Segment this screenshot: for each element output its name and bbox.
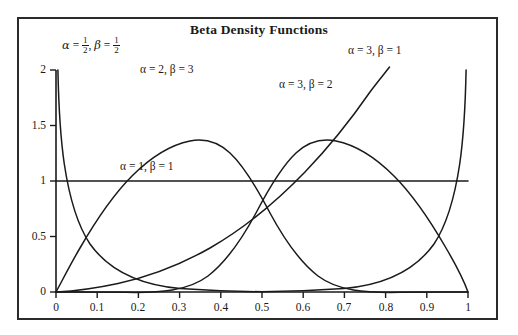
y-tick-label-2: 2 [22,63,46,75]
curve-alpha-3-beta-1 [56,67,390,292]
x-tick-label-0-7: 0.7 [329,301,359,313]
y-tick-label-0: 0 [22,285,46,297]
beta-density-figure: Beta Density Functions [0,0,518,335]
fraction-one-half-2: 12 [113,36,120,56]
beta-symbol: β [94,38,101,52]
x-tick-label-0-5: 0.5 [247,301,277,313]
x-tick-label-0-1: 0.1 [82,301,112,313]
comma-sep: , [89,39,92,51]
annotation-alpha-half-beta-half: α = 12, β = 12 [62,36,120,56]
y-axis-ticks [50,70,56,292]
y-tick-label-0-5: 0.5 [14,230,46,242]
y-tick-label-1-5: 1.5 [14,119,46,131]
x-tick-label-0-6: 0.6 [288,301,318,313]
equals-sign: = [73,39,80,51]
alpha-symbol: α [62,38,70,52]
annotation-alpha-3-beta-2: α = 3, β = 2 [279,78,333,90]
annotation-alpha-1-beta-1: α = 1, β = 1 [120,160,174,172]
x-tick-label-0-9: 0.9 [412,301,442,313]
annotation-alpha-2-beta-3: α = 2, β = 3 [140,63,194,75]
x-tick-label-0: 0 [42,301,70,313]
fraction-one-half: 12 [82,36,89,56]
x-tick-label-0-3: 0.3 [164,301,194,313]
x-tick-label-1: 1 [454,301,482,313]
x-tick-label-0-4: 0.4 [206,301,236,313]
annotation-alpha-3-beta-1: α = 3, β = 1 [348,44,402,56]
x-tick-label-0-2: 0.2 [123,301,153,313]
density-curves [56,67,468,292]
axes [50,70,468,298]
equals-sign-2: = [104,39,111,51]
y-tick-label-1: 1 [22,174,46,186]
x-tick-label-0-8: 0.8 [371,301,401,313]
